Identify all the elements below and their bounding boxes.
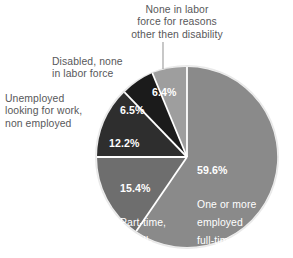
- slice-label-disabled: 6.5%: [120, 86, 145, 134]
- slice-label-none-in-labor-force: 6.4%: [152, 68, 177, 116]
- slice-desc-fulltime: One or more employed full-time: [197, 199, 256, 246]
- callout-none-in-labor-force: None in labor force for reasons other th…: [102, 4, 252, 41]
- slice-value-fulltime: 59.6%: [197, 164, 279, 176]
- slice-desc-parttime: Part-time, no full- time: [120, 217, 166, 258]
- pie-chart-figure: None in labor force for reasons other th…: [0, 0, 293, 258]
- slice-label-fulltime: 59.6% One or more employed full-time: [197, 146, 279, 248]
- slice-label-parttime: 15.4% Part-time, no full- time: [120, 164, 178, 258]
- slice-value-unemployed: 12.2%: [109, 137, 140, 149]
- slice-value-parttime: 15.4%: [120, 182, 178, 194]
- slice-value-disabled: 6.5%: [120, 104, 145, 116]
- slice-value-none-in-labor-force: 6.4%: [152, 86, 177, 98]
